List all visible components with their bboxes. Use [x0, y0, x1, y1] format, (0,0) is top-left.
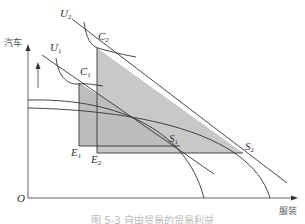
label-c2: C2 — [98, 31, 109, 44]
up-arrow-icon — [36, 62, 41, 69]
trade-gains-diagram — [0, 0, 305, 224]
figure-caption: 图 5-3 自由贸易的贸易利益 — [0, 216, 305, 224]
label-e2: E2 — [91, 154, 101, 167]
label-u2: U2 — [60, 8, 71, 21]
origin-label: O — [17, 193, 25, 204]
label-e1: E1 — [71, 147, 81, 160]
y-axis-arrow-icon — [26, 44, 31, 51]
x-axis-arrow-icon — [291, 196, 298, 201]
label-u1: U1 — [50, 42, 61, 55]
label-c1: C1 — [80, 66, 91, 79]
label-s2: S2 — [245, 141, 254, 154]
label-s1: S1 — [169, 133, 178, 146]
y-axis-label: 汽车 — [4, 39, 22, 48]
x-axis-label: 服装 — [279, 207, 297, 216]
indifference-curve-u2 — [84, 22, 136, 57]
